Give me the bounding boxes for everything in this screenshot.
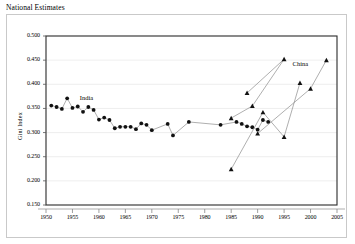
data-point-marker xyxy=(229,116,234,120)
data-point-marker xyxy=(65,96,69,100)
data-point-marker xyxy=(245,124,249,128)
series-india xyxy=(49,96,270,137)
data-point-marker xyxy=(118,125,122,129)
x-tick-label: 2000 xyxy=(298,214,324,220)
y-tick-label: 0.300 xyxy=(14,129,40,135)
y-tick-label: 0.150 xyxy=(14,201,40,207)
data-point-marker xyxy=(282,57,287,61)
data-point-marker xyxy=(86,105,90,109)
data-point-marker xyxy=(250,104,255,108)
y-tick-label: 0.400 xyxy=(14,80,40,86)
data-point-marker xyxy=(261,110,266,114)
data-point-marker xyxy=(145,123,149,127)
x-tick-label: 1955 xyxy=(59,214,85,220)
data-point-marker xyxy=(123,125,127,129)
series-label-china: China xyxy=(293,60,309,67)
x-tick-label: 1950 xyxy=(33,214,59,220)
data-point-marker xyxy=(81,110,85,114)
chart-page: National Estimates Gini Index 0.1500.200… xyxy=(0,0,355,244)
data-point-marker xyxy=(229,167,234,171)
y-tick-label: 0.350 xyxy=(14,104,40,110)
data-point-marker xyxy=(139,121,143,125)
x-tick-label: 1975 xyxy=(165,214,191,220)
data-point-marker xyxy=(187,120,191,124)
data-point-marker xyxy=(219,123,223,127)
data-point-marker xyxy=(256,128,260,132)
data-point-marker xyxy=(113,126,117,130)
data-point-marker xyxy=(102,116,106,120)
x-tick-label: 1980 xyxy=(192,214,218,220)
y-tick-label: 0.250 xyxy=(14,153,40,159)
data-point-marker xyxy=(129,125,133,129)
y-tick-label: 0.450 xyxy=(14,56,40,62)
series-line xyxy=(51,98,268,135)
y-axis-title: Gini Index xyxy=(17,112,23,140)
series-line xyxy=(247,59,284,93)
data-point-marker xyxy=(97,118,101,122)
data-point-marker xyxy=(55,105,59,109)
data-point-marker xyxy=(240,122,244,126)
data-point-marker xyxy=(71,106,75,110)
series-china xyxy=(229,57,329,172)
x-tick-label: 1965 xyxy=(112,214,138,220)
y-tick-label: 0.200 xyxy=(14,177,40,183)
data-point-marker xyxy=(92,108,96,112)
x-tick-label: 1985 xyxy=(218,214,244,220)
data-point-marker xyxy=(298,80,303,84)
data-point-marker xyxy=(150,128,154,132)
x-tick-label: 1990 xyxy=(245,214,271,220)
x-tick-label: 1995 xyxy=(271,214,297,220)
data-point-marker xyxy=(60,107,64,111)
data-point-marker xyxy=(308,86,313,90)
data-point-marker xyxy=(134,127,138,131)
x-tick-label: 1960 xyxy=(86,214,112,220)
series-line xyxy=(231,83,300,169)
plot-area xyxy=(0,0,355,244)
data-point-marker xyxy=(235,120,239,124)
chart-canvas xyxy=(0,0,355,244)
x-tick-label: 1970 xyxy=(139,214,165,220)
data-point-marker xyxy=(108,118,112,122)
series-label-india: India xyxy=(80,94,93,101)
data-point-marker xyxy=(171,134,175,138)
x-tick-label: 2005 xyxy=(324,214,350,220)
data-point-marker xyxy=(49,104,53,108)
y-tick-label: 0.500 xyxy=(14,32,40,38)
data-point-marker xyxy=(166,122,170,126)
series-line xyxy=(231,59,284,118)
data-point-marker xyxy=(76,105,80,109)
data-point-marker xyxy=(261,118,265,122)
